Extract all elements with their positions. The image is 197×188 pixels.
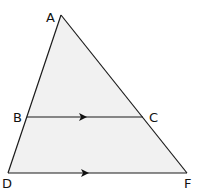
- label-D: D: [2, 176, 12, 188]
- label-B: B: [13, 110, 22, 125]
- label-A: A: [46, 10, 55, 25]
- label-C: C: [149, 110, 158, 125]
- label-F: F: [184, 176, 191, 188]
- triangle-diagram: A B C D F: [0, 0, 197, 188]
